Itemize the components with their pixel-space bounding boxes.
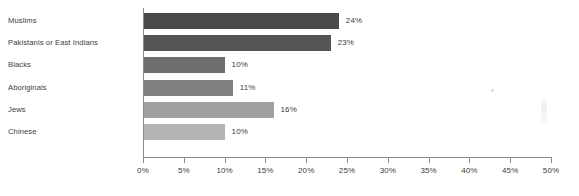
plot-area: 24%23%10%11%16%10% <box>143 8 551 158</box>
bar <box>143 102 274 118</box>
bar-chart: MuslimsPakistanis or East IndiansBlacksA… <box>0 0 579 196</box>
category-label: Chinese <box>8 127 37 137</box>
x-axis-tick-label: 50% <box>543 166 559 176</box>
x-axis-tick-label: 35% <box>420 166 436 176</box>
x-axis-tick-label: 0% <box>137 166 149 176</box>
x-axis-tick <box>184 158 185 163</box>
bar <box>143 124 225 140</box>
bar-value-label: 16% <box>281 102 297 118</box>
bar <box>143 13 339 29</box>
bar <box>143 80 233 96</box>
category-label: Pakistanis or East Indians <box>8 38 98 48</box>
x-axis-tick <box>347 158 348 163</box>
x-axis-tick <box>306 158 307 163</box>
bar <box>143 35 331 51</box>
bar <box>143 57 225 73</box>
x-axis-tick-label: 10% <box>216 166 232 176</box>
x-axis-tick <box>143 158 144 163</box>
x-axis-tick <box>225 158 226 163</box>
x-axis-tick-label: 5% <box>178 166 190 176</box>
x-axis-tick-label: 20% <box>298 166 314 176</box>
x-axis-tick-label: 15% <box>257 166 273 176</box>
x-axis-tick <box>469 158 470 163</box>
x-axis-tick-label: 25% <box>339 166 355 176</box>
bar-value-label: 23% <box>338 35 354 51</box>
category-label: Aboriginals <box>8 83 47 93</box>
x-axis-tick <box>551 158 552 163</box>
category-label: Muslims <box>8 16 37 26</box>
bar-value-label: 11% <box>240 80 256 96</box>
x-axis-tick-label: 30% <box>380 166 396 176</box>
y-axis-line <box>143 8 144 158</box>
category-label: Jews <box>8 105 26 115</box>
bar-value-label: 10% <box>232 124 248 140</box>
bar-value-label: 24% <box>346 13 362 29</box>
bar-value-label: 10% <box>232 57 248 73</box>
x-axis-tick <box>265 158 266 163</box>
x-axis-tick <box>429 158 430 163</box>
x-axis-tick-label: 40% <box>461 166 477 176</box>
x-axis-tick-label: 45% <box>502 166 518 176</box>
x-axis-tick <box>510 158 511 163</box>
category-label: Blacks <box>8 60 31 70</box>
x-axis-tick <box>388 158 389 163</box>
